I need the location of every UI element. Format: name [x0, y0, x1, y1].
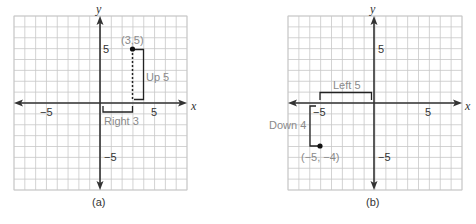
tick-x-neg5-b: −5 [313, 106, 326, 118]
tick-x-5-b: 5 [425, 106, 431, 118]
tick-y-neg5-b: −5 [378, 151, 391, 163]
tick-y-5-b: 5 [378, 43, 384, 55]
tick-x-neg5-a: −5 [40, 106, 53, 118]
tick-x-5-a: 5 [151, 106, 157, 118]
tick-y-neg5-a: −5 [104, 151, 117, 163]
point-3-5 [130, 46, 135, 51]
right-bracket-a [103, 106, 133, 112]
left-5-label: Left 5 [333, 79, 361, 91]
caption-a: (a) [92, 196, 105, 208]
point-neg5-neg4 [317, 143, 322, 148]
right-3-label: Right 3 [104, 115, 139, 127]
point-label-b: (−5, −4) [301, 151, 340, 163]
panel-b: y x −5 5 5 −5 Left 5 Down 4 (−5, −4) (b) [269, 2, 471, 208]
y-axis-label-a: y [95, 2, 102, 16]
y-axis-label-b: y [369, 2, 376, 16]
down-4-label: Down 4 [269, 119, 306, 131]
tick-y-5-a: 5 [103, 43, 109, 55]
x-axis-label-a: x [190, 99, 197, 113]
caption-b: (b) [366, 196, 379, 208]
up-5-label: Up 5 [146, 71, 169, 83]
x-axis-label-b: x [464, 99, 471, 113]
point-label-a: (3,5) [121, 34, 144, 46]
figure: y x −5 5 5 −5 Up 5 Right 3 (3,5) (a) y x… [0, 0, 476, 224]
panel-a: y x −5 5 5 −5 Up 5 Right 3 (3,5) (a) [14, 2, 197, 208]
